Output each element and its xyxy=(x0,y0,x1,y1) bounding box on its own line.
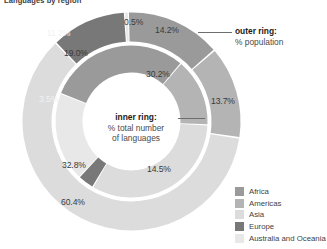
legend: AfricaAmericasAsiaEuropeAustralia and Oc… xyxy=(235,186,327,244)
legend-item[interactable]: Asia xyxy=(235,209,327,221)
outer-label-australia: 0.5% xyxy=(124,17,143,27)
outer-label-asia: 60.4% xyxy=(61,197,85,207)
outer-label-europe: 11.2% xyxy=(47,28,70,38)
legend-swatch-icon xyxy=(235,210,244,219)
legend-item[interactable]: Australia and Oceania xyxy=(235,232,327,244)
legend-item-label: Americas xyxy=(249,199,282,208)
inner-label-asia: 32.8% xyxy=(62,160,86,170)
inner-label-australia: 19.0% xyxy=(64,48,88,58)
legend-swatch-icon xyxy=(235,187,244,196)
inner-label-europe: 3.5% xyxy=(39,94,58,104)
legend-swatch-icon xyxy=(235,199,244,208)
legend-item-label: Asia xyxy=(249,210,264,219)
legend-swatch-icon xyxy=(235,234,244,243)
legend-item-label: Australia and Oceania xyxy=(249,234,326,243)
outer-label-americas: 13.7% xyxy=(211,96,235,106)
inner-ring-annotation: inner ring: % total number of languages xyxy=(95,112,177,144)
legend-item[interactable]: Americas xyxy=(235,198,327,210)
legend-swatch-icon xyxy=(235,222,244,231)
legend-item-label: Europe xyxy=(249,222,274,231)
inner-ring-annotation-subtitle-line1: % total number xyxy=(95,123,177,134)
legend-item[interactable]: Europe xyxy=(235,221,327,233)
outer-ring-annotation-title: outer ring: xyxy=(235,26,283,37)
inner-ring-annotation-subtitle-line2: of languages xyxy=(95,133,177,144)
inner-label-americas: 14.5% xyxy=(147,164,171,174)
inner-ring-annotation-title: inner ring: xyxy=(95,112,177,123)
outer-label-africa: 14.2% xyxy=(155,25,179,35)
chart-page: Languages by region 0.5% 14.2% 13.7% 60.… xyxy=(0,0,327,249)
legend-item-label: Africa xyxy=(249,187,269,196)
outer-ring-annotation-subtitle: % population xyxy=(235,37,283,48)
inner-label-africa: 30.2% xyxy=(146,69,170,79)
outer-ring-annotation: outer ring: % population xyxy=(235,26,283,47)
legend-item[interactable]: Africa xyxy=(235,186,327,198)
